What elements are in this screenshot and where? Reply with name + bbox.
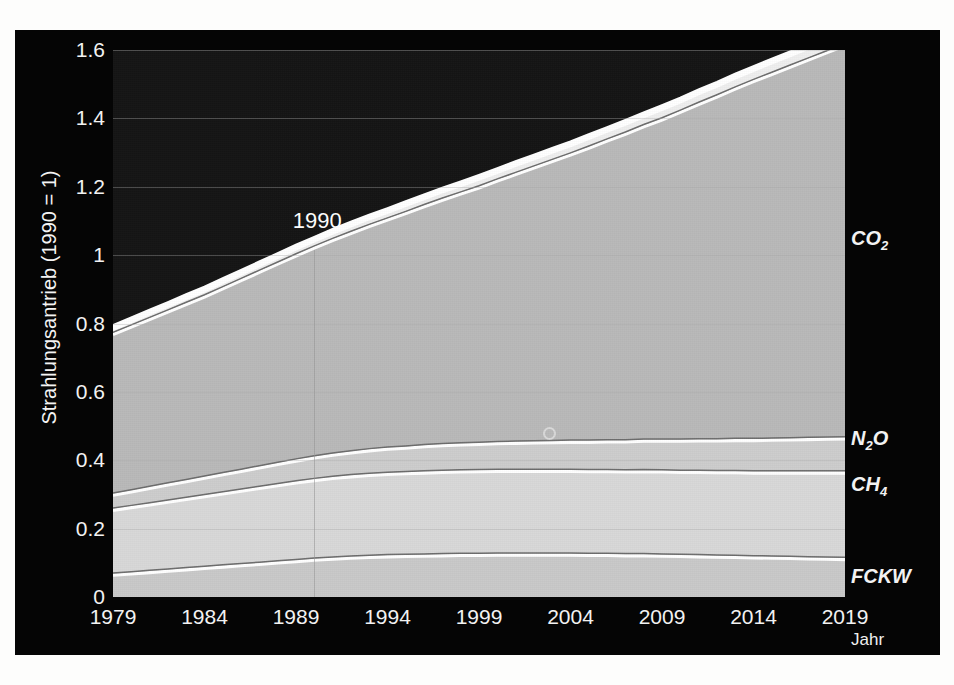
area-series-co2	[113, 50, 845, 493]
gridline	[113, 255, 845, 256]
gridline	[113, 187, 845, 188]
series-label-fckw: FCKW	[851, 565, 911, 588]
x-tick-label: 1979	[90, 605, 137, 629]
y-tick-label: 1.4	[76, 107, 105, 128]
year-1990-annotation-label: 1990	[293, 210, 342, 232]
y-tick-label: 0.6	[76, 381, 105, 402]
gridline	[113, 529, 845, 530]
y-tick-label: 1.2	[76, 176, 105, 197]
x-tick-label: 2019	[822, 605, 869, 629]
y-tick-label: 0.8	[76, 313, 105, 334]
series-label-ch4: CH4	[851, 473, 887, 499]
gridline	[113, 392, 845, 393]
year-1990-marker-line	[314, 250, 315, 597]
x-tick-label: 2009	[639, 605, 686, 629]
series-label-n2o: N2O	[851, 427, 888, 453]
x-tick-label: 2014	[730, 605, 777, 629]
x-tick-label: 1989	[273, 605, 320, 629]
y-tick-label: 1.6	[76, 39, 105, 60]
gridline	[113, 460, 845, 461]
x-tick-label: 1984	[181, 605, 228, 629]
x-axis-title: Jahr	[851, 630, 884, 650]
x-tick-label: 1999	[456, 605, 503, 629]
y-tick-label: 0.2	[76, 518, 105, 539]
y-tick-label: 1	[93, 244, 105, 265]
gridline	[113, 324, 845, 325]
chart-figure-panel: Strahlungsantrieb (1990 = 1) 00.20.40.60…	[15, 30, 940, 655]
gridline	[113, 50, 845, 51]
plot-area: 1990	[113, 50, 845, 597]
y-axis-ticks: 00.20.40.60.811.21.41.6	[15, 50, 105, 597]
image-speck-artifact	[543, 427, 556, 440]
x-tick-label: 1994	[364, 605, 411, 629]
chart-page: Strahlungsantrieb (1990 = 1) 00.20.40.60…	[0, 0, 954, 685]
x-axis-ticks: 197919841989199419992004200920142019	[113, 605, 845, 639]
y-tick-label: 0	[93, 586, 105, 607]
gridline	[113, 118, 845, 119]
x-tick-label: 2004	[547, 605, 594, 629]
y-tick-label: 0.4	[76, 449, 105, 470]
series-label-co2: CO2	[851, 227, 888, 253]
